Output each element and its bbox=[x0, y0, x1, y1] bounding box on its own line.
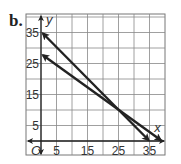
grid bbox=[26, 14, 165, 155]
x-axis-label: x bbox=[153, 120, 161, 135]
origin-label: O bbox=[31, 143, 41, 158]
y-tick-label: 5 bbox=[32, 119, 39, 133]
y-tick-label: 15 bbox=[26, 88, 40, 102]
chart: yxO 51525355152535 bbox=[0, 0, 181, 164]
grid-border bbox=[26, 14, 165, 155]
y-tick-label: 25 bbox=[26, 57, 40, 71]
x-tick-label: 5 bbox=[53, 144, 60, 158]
x-tick-label: 35 bbox=[143, 144, 157, 158]
x-tick-label: 15 bbox=[81, 144, 95, 158]
x-tick-label: 25 bbox=[112, 144, 126, 158]
y-tick-label: 35 bbox=[26, 26, 40, 40]
